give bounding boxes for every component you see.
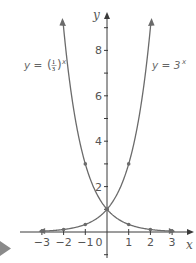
eq-right-prefix: y = 3 [151,59,180,71]
equation-label-three-pow-x: y = 3 x [151,58,187,71]
eq-right-sup: x [181,58,187,66]
data-point [105,208,109,212]
data-point [127,223,131,227]
data-point [62,228,66,232]
play-triangle-icon [0,241,11,256]
y-tick-label: 6 [95,90,102,103]
eq-left-frac-num: 1 [52,59,55,65]
y-axis-label: y [92,8,100,22]
eq-left-sup: x [61,58,67,66]
y-axis-arrow-icon [104,12,110,19]
eq-left-frac-den: 3 [52,66,55,72]
data-point [84,162,88,166]
x-tick-label: 1 [125,236,132,249]
curve-arrow-icon [59,18,66,26]
x-tick-label: −2 [55,236,71,249]
equation-label-one-third-pow-x: y = ( 1 3 ) x [23,58,67,72]
data-point [127,162,131,166]
y-tick-label: 8 [95,44,102,57]
x-tick-label: 3 [169,236,176,249]
x-axis-label: x [186,238,193,252]
x-tick-label: 2 [147,236,154,249]
data-point [40,229,44,233]
x-tick-label: −1 [77,236,93,249]
data-point [170,229,174,233]
data-point [84,223,88,227]
eq-left-paren-open: ( [47,58,52,72]
x-axis-arrow-icon [187,229,194,235]
curve-arrow-icon [148,18,155,26]
data-point [149,228,153,232]
x-tick-label: 0 [96,236,103,249]
x-tick-label: −3 [34,236,50,249]
eq-left-paren-close: ) [57,58,62,72]
y-tick-label: 4 [95,135,102,148]
tick-labels: −3−2−101232468 [34,44,176,249]
exponential-graph: −3−2−101232468 y x y = ( 1 3 ) x y = 3 x [0,0,196,263]
axes [20,12,194,258]
eq-left-prefix: y = [23,59,42,71]
curve-one-third-pow-x [63,21,174,231]
